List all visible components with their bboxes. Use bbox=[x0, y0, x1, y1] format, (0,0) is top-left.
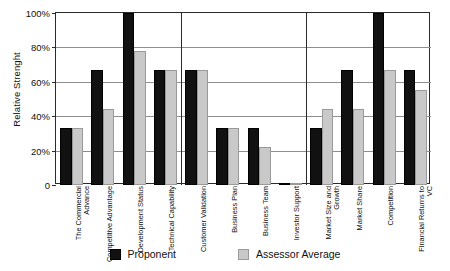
plot-area: 100%80%60%40%20%0 bbox=[55, 12, 430, 184]
legend-label-assessor-average: Assessor Average bbox=[256, 248, 340, 260]
y-axis-tick-label: 60% bbox=[4, 76, 50, 87]
bar-proponent bbox=[279, 183, 291, 185]
bar-assessor-average bbox=[384, 70, 396, 185]
bar-assessor-average bbox=[103, 109, 115, 185]
y-axis-tick-label: 0 bbox=[4, 180, 50, 191]
bar-proponent bbox=[216, 128, 228, 185]
legend-label-proponent: Proponent bbox=[128, 248, 176, 260]
bar-chart: Relative Strenght 100%80%60%40%20%0 The … bbox=[0, 0, 450, 271]
y-axis-tick-label: 100% bbox=[4, 8, 50, 19]
bar-proponent bbox=[373, 13, 385, 185]
group-separator bbox=[306, 13, 307, 185]
y-axis-title: Relative Strenght bbox=[11, 20, 22, 160]
y-axis-tick-label: 40% bbox=[4, 111, 50, 122]
bar-assessor-average bbox=[322, 109, 334, 185]
bar-assessor-average bbox=[197, 70, 209, 185]
bar-proponent bbox=[185, 70, 197, 185]
bars-layer bbox=[56, 13, 431, 185]
y-axis-tick-label: 20% bbox=[4, 145, 50, 156]
bar-proponent bbox=[310, 128, 322, 185]
bar-assessor-average bbox=[165, 70, 177, 185]
bar-proponent bbox=[404, 70, 416, 185]
bar-assessor-average bbox=[290, 183, 302, 185]
bar-proponent bbox=[341, 70, 353, 185]
bar-assessor-average bbox=[134, 51, 146, 185]
bar-assessor-average bbox=[353, 109, 365, 185]
chart-legend: Proponent Assessor Average bbox=[0, 248, 450, 260]
bar-proponent bbox=[91, 70, 103, 185]
y-axis-tick-label: 80% bbox=[4, 42, 50, 53]
bar-assessor-average bbox=[259, 147, 271, 185]
bar-proponent bbox=[154, 70, 166, 185]
bar-assessor-average bbox=[72, 128, 84, 185]
legend-item-proponent: Proponent bbox=[110, 248, 176, 260]
bar-assessor-average bbox=[415, 90, 427, 185]
bar-proponent bbox=[248, 128, 260, 185]
bar-proponent bbox=[123, 13, 135, 185]
gray-square-icon bbox=[238, 249, 249, 260]
bar-assessor-average bbox=[228, 128, 240, 185]
bar-proponent bbox=[60, 128, 72, 185]
black-square-icon bbox=[110, 249, 121, 260]
group-separator bbox=[181, 13, 182, 185]
legend-item-assessor-average: Assessor Average bbox=[238, 248, 340, 260]
